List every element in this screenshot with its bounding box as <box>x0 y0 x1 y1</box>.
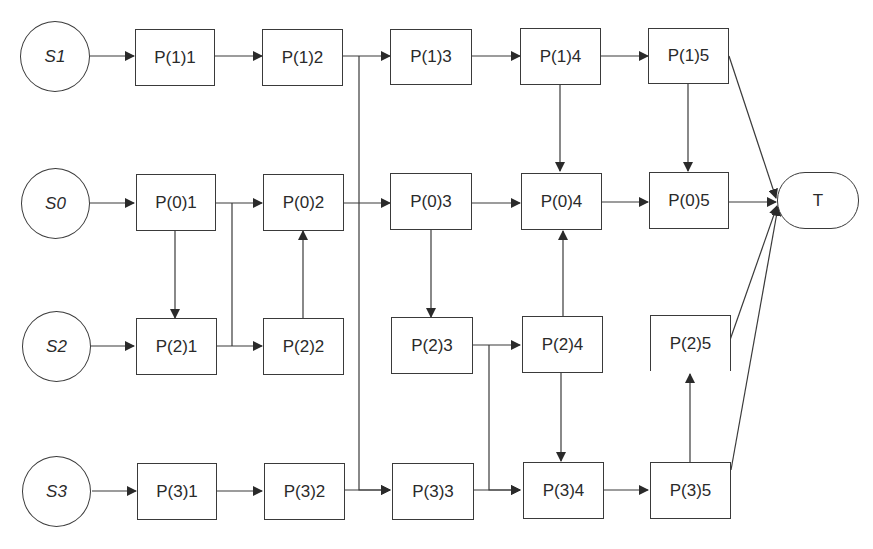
edge-p35-t <box>731 207 778 470</box>
source-node-s3: S3 <box>22 456 91 527</box>
process-node: P(0)5 <box>649 172 729 229</box>
process-node: P(2)1 <box>136 318 217 375</box>
source-node-s2: S2 <box>22 311 91 382</box>
edge-p25-t <box>730 206 777 340</box>
process-node: P(2)5 <box>650 315 731 371</box>
process-node: P(1)3 <box>390 29 472 85</box>
process-node: P(2)4 <box>522 316 603 373</box>
process-node: P(0)4 <box>521 173 602 230</box>
process-node: P(1)4 <box>520 28 601 85</box>
process-node: P(0)3 <box>390 173 472 230</box>
source-label: S0 <box>45 194 66 214</box>
flow-diagram: S1 S0 S2 S3 P(1)1 P(1)2 P(1)3 P(1)4 P(1)… <box>0 0 873 549</box>
source-label: S3 <box>46 482 67 502</box>
process-node: P(3)3 <box>392 463 474 520</box>
source-node-s1: S1 <box>20 21 90 92</box>
process-node: P(2)3 <box>391 317 473 374</box>
source-node-s0: S0 <box>21 168 90 239</box>
process-node: P(1)2 <box>262 29 343 86</box>
source-label: S1 <box>45 47 66 67</box>
source-label: S2 <box>46 337 67 357</box>
process-node: P(1)1 <box>135 29 215 86</box>
process-node: P(0)2 <box>263 174 344 231</box>
edge-p23-p34 <box>489 345 520 490</box>
edge-p12-p33 <box>359 56 390 490</box>
process-node: P(3)4 <box>523 462 604 519</box>
process-node: P(1)5 <box>648 28 729 84</box>
edge-p15-t <box>729 56 776 198</box>
process-node: P(3)2 <box>264 463 345 520</box>
process-node: P(3)1 <box>137 463 217 520</box>
terminal-node-t: T <box>777 172 859 229</box>
process-node: P(0)1 <box>136 174 216 231</box>
process-node: P(3)5 <box>650 462 731 519</box>
process-node: P(2)2 <box>263 318 344 375</box>
